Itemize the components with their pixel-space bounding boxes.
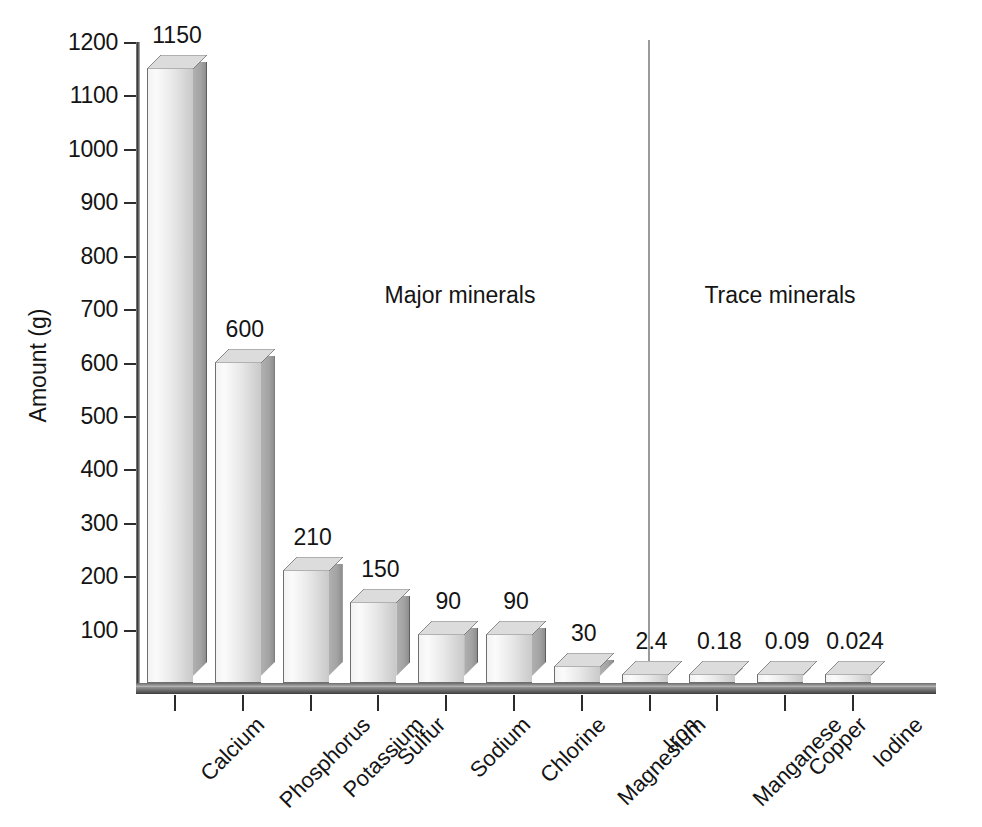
- y-axis-tick-label: 900: [81, 189, 118, 216]
- bar: [283, 557, 329, 683]
- bar-front-face: [147, 69, 193, 683]
- bar-front-face: [350, 603, 396, 683]
- y-axis-tick-label: 600: [81, 349, 118, 376]
- x-axis-tick: [784, 695, 786, 711]
- y-axis-tick: [124, 202, 136, 204]
- y-axis-tick: [124, 149, 136, 151]
- bar-value-label: 30: [571, 620, 597, 647]
- bar-value-label: 90: [503, 588, 529, 615]
- y-axis-tick: [124, 416, 136, 418]
- x-axis-label: Iodine: [868, 712, 929, 773]
- x-axis-label: Chlorine: [535, 712, 611, 788]
- y-axis-tick: [124, 576, 136, 578]
- y-axis-tick: [124, 630, 136, 632]
- x-axis-tick: [377, 695, 379, 711]
- y-axis-tick: [124, 469, 136, 471]
- bar: [215, 349, 261, 684]
- y-axis-tick-label: 500: [81, 402, 118, 429]
- bar-top-face: [825, 661, 885, 675]
- bar-top-face: [689, 661, 749, 675]
- section-divider: [648, 40, 650, 690]
- y-axis-tick-label: 200: [81, 563, 118, 590]
- bar-front-face: [689, 675, 735, 683]
- y-axis-line: [136, 42, 140, 690]
- bar-value-label: 0.18: [697, 628, 742, 655]
- y-axis-tick: [124, 256, 136, 258]
- bar-side-face: [329, 564, 343, 676]
- bar: [554, 653, 600, 683]
- bar: [350, 589, 396, 683]
- bar-top-face: [486, 621, 546, 635]
- section-label-major: Major minerals: [385, 282, 536, 309]
- bar-front-face: [486, 635, 532, 683]
- section-label-trace: Trace minerals: [704, 282, 855, 309]
- x-axis-tick: [174, 695, 176, 711]
- bar-top-face: [757, 661, 817, 675]
- x-axis-tick: [242, 695, 244, 711]
- y-axis-tick-label: 1100: [70, 82, 118, 109]
- bar: [147, 55, 193, 683]
- x-axis-line: [136, 683, 936, 694]
- bar-front-face: [283, 571, 329, 683]
- bar-value-label: 0.09: [765, 628, 810, 655]
- bar-front-face: [757, 675, 803, 683]
- bar-top-face: [350, 589, 410, 603]
- bar-side-face: [396, 596, 410, 676]
- x-axis-tick: [716, 695, 718, 711]
- y-axis-tick-label: 1200: [68, 29, 118, 56]
- bar-top-face: [147, 55, 207, 69]
- bar-value-label: 0.024: [826, 628, 884, 655]
- bar-side-face: [464, 628, 478, 676]
- bar: [689, 661, 735, 683]
- y-axis-tick-label: 400: [81, 456, 118, 483]
- x-axis-tick: [649, 695, 651, 711]
- bar-top-face: [554, 653, 614, 667]
- x-axis-tick: [581, 695, 583, 711]
- bar-value-label: 210: [293, 524, 331, 551]
- bar: [418, 621, 464, 683]
- y-axis-tick: [124, 523, 136, 525]
- bar: [486, 621, 532, 683]
- x-axis-front-face: [136, 687, 936, 694]
- y-axis-title: Amount (g): [25, 266, 52, 466]
- bar-value-label: 2.4: [636, 628, 668, 655]
- x-axis-label: Sodium: [465, 712, 536, 783]
- bar-side-face: [261, 356, 275, 677]
- y-axis-tick-label: 1000: [68, 135, 118, 162]
- x-axis-tick: [852, 695, 854, 711]
- y-axis-tick-label: 300: [81, 509, 118, 536]
- x-axis-tick: [445, 695, 447, 711]
- bar-chart: Amount (g) 12001100100090080070060050040…: [0, 0, 982, 827]
- bar-value-label: 1150: [152, 22, 201, 49]
- x-axis-tick: [513, 695, 515, 711]
- y-axis-tick: [124, 309, 136, 311]
- bar-value-label: 600: [226, 316, 264, 343]
- bar-side-face: [532, 628, 546, 676]
- x-axis-label: Calcium: [195, 712, 270, 787]
- bar-top-face: [283, 557, 343, 571]
- bar: [757, 661, 803, 683]
- y-axis-tick: [124, 363, 136, 365]
- bar-top-face: [418, 621, 478, 635]
- bar-front-face: [215, 363, 261, 684]
- bar-front-face: [418, 635, 464, 683]
- bar-value-label: 90: [435, 588, 461, 615]
- bar: [825, 661, 871, 683]
- x-axis-tick: [310, 695, 312, 711]
- bar-value-label: 150: [361, 556, 399, 583]
- bar-top-face: [622, 661, 682, 675]
- bar: [622, 661, 668, 683]
- y-axis-tick: [124, 42, 136, 44]
- bar-front-face: [825, 675, 871, 683]
- bar-top-face: [215, 349, 275, 363]
- y-axis-tick-label: 800: [81, 242, 118, 269]
- bar-front-face: [622, 675, 668, 683]
- y-axis-tick-label: 100: [81, 616, 118, 643]
- bar-front-face: [554, 667, 600, 683]
- y-axis-tick: [124, 95, 136, 97]
- bar-side-face: [193, 62, 207, 676]
- y-axis-tick-label: 700: [81, 296, 118, 323]
